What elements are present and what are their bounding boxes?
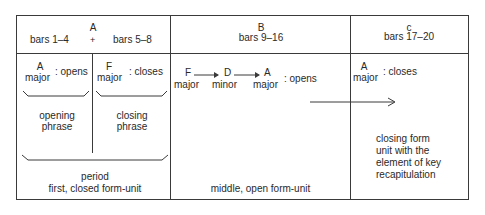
c-function: : closes <box>383 66 417 77</box>
c-caption-line4: recapitulation <box>376 169 435 180</box>
c-caption-line2: unit with the <box>376 145 429 156</box>
continuation-arrow <box>0 0 485 215</box>
c-key: A <box>352 61 376 72</box>
c-caption-line3: element of key <box>376 157 441 168</box>
c-mode: major <box>353 72 378 83</box>
c-caption-line1: closing form <box>376 133 430 144</box>
